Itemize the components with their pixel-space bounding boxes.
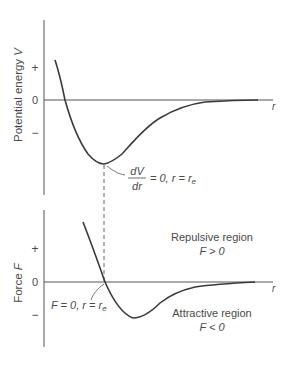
potential-energy-curve [55,60,258,164]
svg-text:Attractive region: Attractive region [172,307,251,319]
svg-text:= 0, r = re: = 0, r = re [150,172,197,186]
svg-text:Repulsive region: Repulsive region [171,231,253,243]
repulsive-region-label: Repulsive region F > 0 [171,231,253,257]
potential-min-annotation: dV dr = 0, r = re [128,165,197,192]
attractive-region-label: Attractive region F < 0 [172,307,251,333]
potential-tick-plus: + [31,61,38,75]
potential-min-leader [107,166,125,175]
potential-force-diagram: Potential energy V + 0 − r dV dr = 0, r … [0,0,291,369]
force-tick-minus: − [31,308,38,322]
force-x-label: r [272,283,276,294]
force-panel: Force F + 0 − r F = 0, r = re Repulsive … [12,210,276,347]
force-zero-annotation: F = 0, r = re [51,299,107,313]
potential-energy-panel: Potential energy V + 0 − r dV dr = 0, r … [12,20,276,195]
svg-text:F < 0: F < 0 [199,321,225,333]
force-y-label: Force F [12,262,24,303]
force-tick-plus: + [31,242,38,256]
svg-text:F > 0: F > 0 [199,245,225,257]
force-zero-leader [91,284,104,300]
force-tick-zero: 0 [32,276,38,288]
potential-y-label: Potential energy V [12,47,24,142]
svg-text:dV: dV [130,165,145,177]
svg-text:dr: dr [132,180,143,192]
potential-x-label: r [272,101,276,112]
potential-tick-zero: 0 [32,94,38,106]
potential-tick-minus: − [31,126,38,140]
